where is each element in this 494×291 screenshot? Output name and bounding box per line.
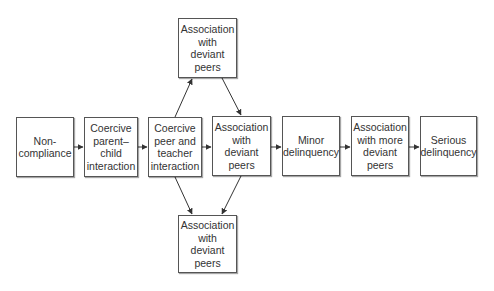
node-coercive-parent-child: Coercive parent– child interaction <box>84 117 138 177</box>
node-assoc-deviant-peers-top: Association with deviant peers <box>178 18 237 78</box>
arrow-assoc-top-to-assoc-mid <box>222 78 241 115</box>
node-label: Association with deviant peers <box>181 23 235 73</box>
node-label: Association with deviant peers <box>215 121 269 171</box>
node-serious-delinquency: Serious delinquency <box>420 116 477 176</box>
node-noncompliance: Non- compliance <box>16 117 74 177</box>
node-label: Coercive peer and teacher interaction <box>151 122 199 172</box>
arrow-assoc-mid-to-assoc-bottom <box>222 176 241 214</box>
node-assoc-more-deviant-peers: Association with more deviant peers <box>351 116 409 176</box>
node-label: Association with deviant peers <box>181 219 235 269</box>
node-assoc-deviant-peers-bottom: Association with deviant peers <box>178 215 237 273</box>
node-label: Coercive parent– child interaction <box>87 122 135 172</box>
node-minor-delinquency: Minor delinquency <box>282 116 340 176</box>
node-label: Non- compliance <box>18 135 71 160</box>
node-label: Serious delinquency <box>420 134 476 159</box>
node-assoc-deviant-peers-mid: Association with deviant peers <box>212 116 271 176</box>
arrow-peer-teacher-to-assoc-bottom <box>175 177 192 214</box>
node-label: Minor delinquency <box>283 134 339 159</box>
node-label: Association with more deviant peers <box>353 121 407 171</box>
arrow-peer-teacher-to-assoc-top <box>175 79 192 117</box>
node-coercive-peer-teacher: Coercive peer and teacher interaction <box>148 117 202 177</box>
